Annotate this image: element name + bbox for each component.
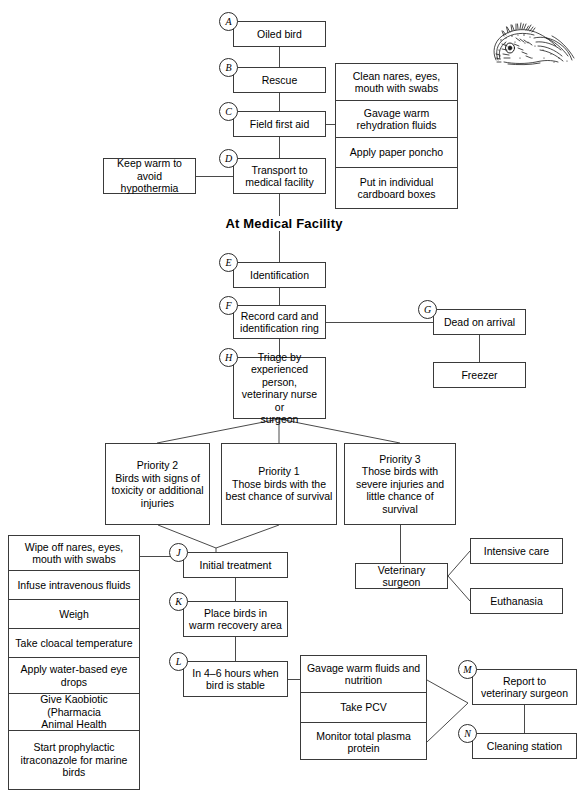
- node-record-card[interactable]: Record card andidentification ring: [233, 305, 326, 339]
- node-priority-2[interactable]: Priority 2 Birds with signs oftoxicity o…: [105, 443, 210, 525]
- step-text: Wipe off nares, eyes,mouth with swabs: [25, 541, 123, 566]
- treatment-step[interactable]: Start prophylacticitraconazole for marin…: [9, 731, 139, 789]
- node-cleaning-station[interactable]: Cleaning station: [472, 733, 577, 759]
- stable-step-list: Gavage warm fluids andnutrition Take PCV…: [300, 655, 427, 760]
- node-dead-on-arrival[interactable]: Dead on arrival: [433, 309, 526, 335]
- initial-treatment-step-list: Wipe off nares, eyes,mouth with swabs In…: [8, 535, 140, 790]
- field-first-aid-step[interactable]: Clean nares, eyes,mouth with swabs: [336, 64, 457, 101]
- node-triage-label: Triage byexperienced person,veterinary n…: [237, 351, 322, 426]
- step-text: Start prophylacticitraconazole for marin…: [21, 741, 128, 779]
- node-priority-3[interactable]: Priority 3 Those birds withsevere injuri…: [344, 443, 456, 525]
- stable-step[interactable]: Take PCV: [301, 693, 426, 723]
- priority-title: Priority 3: [379, 453, 420, 466]
- step-text: Put in individualcardboard boxes: [357, 176, 435, 201]
- marker-a: A: [219, 12, 238, 31]
- step-text: Monitor total plasmaprotein: [316, 730, 411, 755]
- marker-h: H: [219, 348, 238, 367]
- node-field-first-aid[interactable]: Field first aid: [233, 111, 326, 137]
- step-text: Take PCV: [340, 701, 387, 714]
- node-identification-label: Identification: [250, 269, 309, 282]
- marker-d: D: [219, 149, 238, 168]
- marker-l: L: [169, 652, 188, 671]
- treatment-step[interactable]: Take cloacal temperature: [9, 629, 139, 658]
- priority-desc: Those birds withsevere injuries andlittl…: [348, 465, 452, 515]
- node-freezer[interactable]: Freezer: [433, 362, 526, 388]
- priority-desc: Those birds with thebest chance of survi…: [226, 478, 333, 503]
- node-rescue-label: Rescue: [262, 74, 298, 87]
- priority-title: Priority 2: [137, 459, 178, 472]
- node-in-4-6-hours-label: In 4–6 hours whenbird is stable: [192, 667, 278, 692]
- marker-n: N: [458, 724, 477, 743]
- node-priority-1[interactable]: Priority 1 Those birds with thebest chan…: [221, 443, 337, 525]
- priority-title: Priority 1: [258, 465, 299, 478]
- treatment-step[interactable]: Apply water-based eyedrops: [9, 658, 139, 694]
- flowchart-canvas: A Oiled bird B Rescue C Field first aid …: [0, 0, 584, 801]
- step-text: Weigh: [59, 608, 89, 621]
- node-intensive-care[interactable]: Intensive care: [470, 538, 563, 564]
- step-text: Gavage warm fluids andnutrition: [307, 662, 420, 687]
- node-triage[interactable]: Triage byexperienced person,veterinary n…: [233, 357, 326, 419]
- connector-m-to-n: [524, 705, 525, 733]
- node-transport-label: Transport tomedical facility: [245, 164, 313, 189]
- field-first-aid-step[interactable]: Gavage warmrehydration fluids: [336, 101, 457, 138]
- marker-m: M: [458, 660, 477, 679]
- marker-e: E: [219, 253, 238, 272]
- section-heading-medical-facility: At Medical Facility: [200, 216, 368, 231]
- stable-step[interactable]: Gavage warm fluids andnutrition: [301, 656, 426, 693]
- node-place-birds-label: Place birds inwarm recovery area: [189, 607, 282, 632]
- node-report-to-vet[interactable]: Report toveterinary surgeon: [472, 669, 577, 705]
- node-initial-treatment-label: Initial treatment: [200, 559, 272, 572]
- node-oiled-bird[interactable]: Oiled bird: [233, 21, 326, 47]
- node-identification[interactable]: Identification: [233, 262, 326, 288]
- marker-j: J: [169, 543, 188, 562]
- node-euthanasia[interactable]: Euthanasia: [470, 588, 563, 614]
- node-initial-treatment[interactable]: Initial treatment: [183, 552, 288, 578]
- node-euthanasia-label: Euthanasia: [490, 595, 543, 608]
- heading-text: At Medical Facility: [225, 216, 342, 231]
- node-transport[interactable]: Transport tomedical facility: [233, 158, 326, 194]
- field-first-aid-step[interactable]: Put in individualcardboard boxes: [336, 168, 457, 208]
- node-record-card-label: Record card andidentification ring: [240, 310, 319, 335]
- treatment-step[interactable]: Wipe off nares, eyes,mouth with swabs: [9, 536, 139, 571]
- treatment-step[interactable]: Infuse intravenous fluids: [9, 571, 139, 600]
- node-field-first-aid-label: Field first aid: [250, 118, 310, 131]
- node-in-4-6-hours[interactable]: In 4–6 hours whenbird is stable: [183, 661, 288, 697]
- field-first-aid-step[interactable]: Apply paper poncho: [336, 138, 457, 168]
- node-place-birds[interactable]: Place birds inwarm recovery area: [183, 601, 288, 637]
- oiled-bird-sketch: [484, 8, 584, 66]
- node-veterinary-surgeon[interactable]: Veterinary surgeon: [355, 563, 448, 589]
- node-oiled-bird-label: Oiled bird: [257, 28, 302, 41]
- marker-b: B: [219, 58, 238, 77]
- node-report-to-vet-label: Report toveterinary surgeon: [481, 675, 568, 700]
- step-text: Give Kaobiotic (PharmaciaAnimal Health: [12, 693, 136, 731]
- step-text: Gavage warmrehydration fluids: [357, 107, 437, 132]
- node-keep-warm-label: Keep warm to avoidhypothermia: [107, 157, 192, 195]
- node-dead-on-arrival-label: Dead on arrival: [444, 316, 515, 329]
- field-first-aid-step-list: Clean nares, eyes,mouth with swabs Gavag…: [335, 63, 458, 209]
- priority-desc: Birds with signs oftoxicity or additiona…: [111, 472, 203, 510]
- node-freezer-label: Freezer: [461, 369, 497, 382]
- node-keep-warm[interactable]: Keep warm to avoidhypothermia: [103, 158, 196, 194]
- node-rescue[interactable]: Rescue: [233, 67, 326, 93]
- stable-step[interactable]: Monitor total plasmaprotein: [301, 723, 426, 761]
- marker-c: C: [219, 102, 238, 121]
- treatment-step[interactable]: Weigh: [9, 600, 139, 629]
- step-text: Clean nares, eyes,mouth with swabs: [353, 70, 441, 95]
- treatment-step[interactable]: Give Kaobiotic (PharmaciaAnimal Health: [9, 694, 139, 731]
- marker-f: F: [219, 296, 238, 315]
- node-veterinary-surgeon-label: Veterinary surgeon: [359, 564, 444, 589]
- step-text: Take cloacal temperature: [15, 637, 132, 650]
- marker-g: G: [418, 300, 437, 319]
- marker-k: K: [169, 592, 188, 611]
- node-cleaning-station-label: Cleaning station: [487, 740, 562, 753]
- step-text: Apply water-based eyedrops: [21, 663, 128, 688]
- node-intensive-care-label: Intensive care: [484, 545, 549, 558]
- step-text: Apply paper poncho: [350, 146, 443, 159]
- step-text: Infuse intravenous fluids: [17, 579, 130, 592]
